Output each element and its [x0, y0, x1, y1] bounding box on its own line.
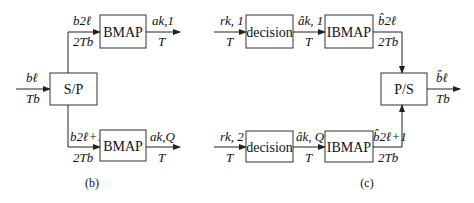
label-ak1: ak,1	[152, 13, 174, 28]
label-ahat-kq-rate: T	[305, 150, 313, 165]
bmap-lower-label: BMAP	[103, 139, 143, 154]
ibmap-upper-label: IBMAP	[327, 25, 372, 40]
label-ak1-rate: T	[158, 34, 166, 49]
label-ahat-k1-rate: T	[305, 34, 313, 49]
label-b2l1-rate: 2Tb	[73, 150, 94, 165]
label-rk1: rk, 1	[220, 13, 244, 28]
label-bhat-2l: b̂2ℓ	[378, 13, 397, 28]
label-ahat-kq: âk, Q	[296, 129, 325, 144]
bmap-upper-label: BMAP	[103, 25, 143, 40]
label-b2l-rate: 2Tb	[73, 34, 94, 49]
label-akq: ak,Q	[150, 129, 176, 144]
label-ahat-k1: âk, 1	[298, 13, 323, 28]
label-bhat-2l1: b̂2ℓ+1	[373, 129, 407, 144]
label-b2l1: b2ℓ+1	[70, 129, 104, 144]
label-bhat-2l-rate: 2Tb	[378, 34, 399, 49]
label-rk1-rate: T	[226, 34, 234, 49]
label-input-b-bottom: Tb	[26, 91, 40, 106]
label-bhat-rate: Tb	[436, 91, 450, 106]
label-akq-rate: T	[158, 150, 166, 165]
label-rk2: rk, 2	[220, 129, 244, 144]
label-bhat: b̂ℓ	[436, 70, 449, 85]
panel-b: bℓ Tb S/P b2ℓ 2Tb BMAP ak,1 T b2ℓ+1 2Tb …	[16, 13, 180, 190]
decision-lower-label: decision	[246, 140, 293, 155]
panel-c: rk, 1 T decision âk, 1 T IBMAP b̂2ℓ 2Tb …	[214, 13, 460, 190]
caption-c: (c)	[360, 176, 373, 190]
decision-upper-label: decision	[246, 25, 293, 40]
label-b2l: b2ℓ	[73, 13, 92, 28]
label-input-b-top: bℓ	[26, 70, 39, 85]
sp-block-label: S/P	[64, 82, 84, 97]
label-bhat-2l1-rate: 2Tb	[378, 150, 399, 165]
ps-block-label: P/S	[394, 82, 413, 97]
caption-b: (b)	[85, 176, 99, 190]
ibmap-lower-label: IBMAP	[327, 140, 372, 155]
block-diagram: bℓ Tb S/P b2ℓ 2Tb BMAP ak,1 T b2ℓ+1 2Tb …	[0, 0, 474, 203]
label-rk2-rate: T	[226, 150, 234, 165]
